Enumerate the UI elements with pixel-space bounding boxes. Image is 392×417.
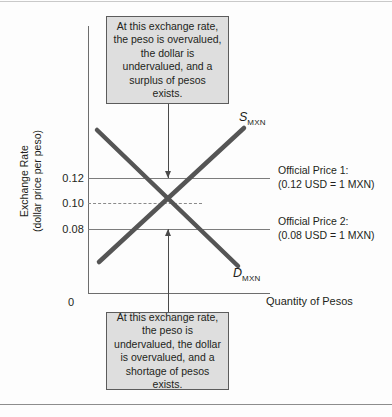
arrow-up-icon: [165, 229, 171, 236]
ytick-label-012: 0.12: [50, 172, 84, 184]
y-axis-title-line2: (dollar price per peso): [31, 106, 44, 256]
ytick-label-008: 0.08: [50, 223, 84, 235]
callout-surplus: At this exchange rate, the peso is overv…: [106, 16, 229, 104]
price-line-008: [88, 229, 270, 230]
official-price-1-value: (0.12 USD = 1 MXN): [278, 177, 375, 191]
demand-curve-label-sub: MXN: [242, 274, 260, 283]
official-price-2-note: Official Price 2: (0.08 USD = 1 MXN): [278, 214, 375, 242]
equilibrium-dashed-line: [88, 203, 202, 204]
price-line-012: [88, 178, 270, 179]
origin-label: 0: [68, 296, 74, 308]
y-axis-title-line1: Exchange Rate: [18, 145, 30, 217]
arrow-down-icon: [165, 171, 171, 178]
callout-shortage: At this exchange rate, the peso is under…: [106, 312, 229, 390]
demand-curve-label-main: D: [233, 266, 242, 280]
figure-canvas: 0.12 0.10 0.08 0 Exchange Rate (dollar p…: [0, 0, 392, 417]
official-price-2-title: Official Price 2:: [278, 214, 375, 228]
top-divider-rule: [0, 1, 392, 2]
callout-top-connector: [168, 104, 169, 178]
supply-curve-label-sub: MXN: [247, 118, 265, 127]
demand-curve-label: DMXN: [233, 266, 260, 283]
x-axis-title: Quantity of Pesos: [266, 295, 353, 307]
supply-curve-label: SMXN: [239, 110, 266, 127]
callout-bottom-connector: [168, 229, 169, 312]
official-price-1-note: Official Price 1: (0.12 USD = 1 MXN): [278, 163, 375, 191]
official-price-1-title: Official Price 1:: [278, 163, 375, 177]
bottom-divider-rule: [0, 404, 392, 405]
y-axis-title: Exchange Rate (dollar price per peso): [18, 106, 44, 256]
official-price-2-value: (0.08 USD = 1 MXN): [278, 228, 375, 242]
ytick-label-010: 0.10: [50, 197, 84, 209]
